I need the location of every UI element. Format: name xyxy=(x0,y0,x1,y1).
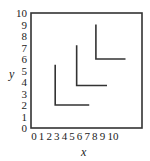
indifference-curves xyxy=(55,25,125,106)
y-tick-label: 5 xyxy=(22,65,28,77)
y-tick-label: 7 xyxy=(22,42,28,54)
x-axis-label: x xyxy=(80,145,87,159)
y-tick-label: 10 xyxy=(16,7,28,19)
x-tick-label: 8 xyxy=(92,130,98,142)
l-curve-3 xyxy=(96,25,126,60)
x-tick-label: 2 xyxy=(46,130,52,142)
y-tick-label: 0 xyxy=(22,122,28,134)
x-tick-label: 6 xyxy=(77,130,83,142)
y-tick-label: 9 xyxy=(22,19,28,31)
y-tick-label: 2 xyxy=(22,99,28,111)
chart: 012345678910 012345678910 y x xyxy=(0,0,150,161)
l-curve-2 xyxy=(77,45,107,85)
y-tick-label: 6 xyxy=(22,53,28,65)
y-tick-label: 3 xyxy=(22,88,28,100)
y-axis-label: y xyxy=(8,67,15,81)
y-tick-labels: 012345678910 xyxy=(16,7,28,134)
x-tick-label: 7 xyxy=(84,130,90,142)
x-tick-labels: 012345678910 xyxy=(31,130,119,142)
y-tick-label: 8 xyxy=(22,30,28,42)
x-tick-label: 9 xyxy=(100,130,106,142)
x-tick-label: 1 xyxy=(39,130,45,142)
x-tick-label: 4 xyxy=(62,130,68,142)
plot-frame xyxy=(31,13,142,128)
x-tick-label: 3 xyxy=(54,130,60,142)
y-tick-label: 4 xyxy=(22,76,28,88)
x-tick-label: 5 xyxy=(69,130,75,142)
x-tick-label: 0 xyxy=(31,130,37,142)
y-tick-label: 1 xyxy=(22,111,28,123)
x-tick-label: 10 xyxy=(108,130,120,142)
